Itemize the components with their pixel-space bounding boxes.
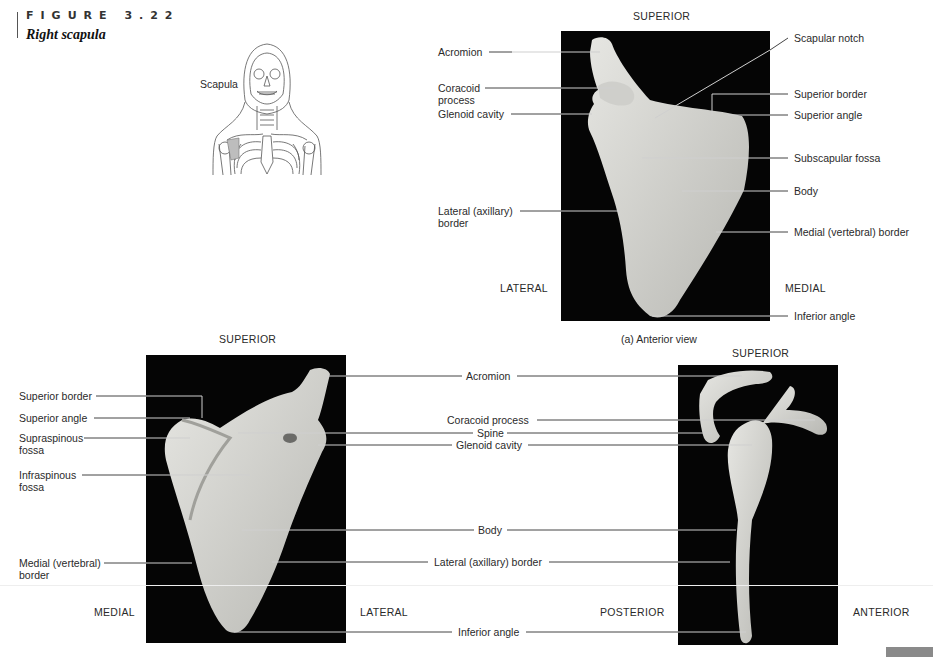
b-label-superior-border: Superior border bbox=[19, 390, 92, 402]
photo-lateral-view bbox=[678, 365, 838, 645]
panel-a-medial: MEDIAL bbox=[785, 282, 826, 294]
b-label-superior-angle: Superior angle bbox=[19, 412, 87, 424]
a-label-scapular-notch: Scapular notch bbox=[794, 32, 864, 44]
figure-accent-bar bbox=[17, 12, 18, 38]
shared-label-lateral-border: Lateral (axillary) border bbox=[434, 556, 542, 568]
panel-a-caption: (a) Anterior view bbox=[621, 333, 697, 345]
a-label-superior-angle: Superior angle bbox=[794, 109, 862, 121]
b-label-medial-line2: border bbox=[19, 569, 49, 581]
b-label-infraspinous-fossa: Infraspinous fossa bbox=[19, 469, 76, 493]
a-label-inferior-angle: Inferior angle bbox=[794, 310, 855, 322]
photo-posterior-view bbox=[146, 355, 346, 643]
panel-b-medial: MEDIAL bbox=[94, 606, 135, 618]
figure-number: FIGURE 3.22 bbox=[26, 9, 180, 22]
a-label-acromion: Acromion bbox=[438, 46, 482, 58]
shared-label-glenoid-cavity: Glenoid cavity bbox=[456, 439, 522, 451]
b-label-supraspinous-line2: fossa bbox=[19, 444, 44, 456]
inset-scapula-label: Scapula bbox=[200, 78, 238, 90]
shared-label-coracoid-process: Coracoid process bbox=[447, 414, 529, 426]
panel-a-superior: SUPERIOR bbox=[633, 10, 690, 22]
b-label-infraspinous-line1: Infraspinous bbox=[19, 469, 76, 481]
panel-a-lateral: LATERAL bbox=[500, 282, 548, 294]
b-label-medial-line1: Medial (vertebral) bbox=[19, 557, 101, 569]
a-label-coracoid-line2: process bbox=[438, 94, 475, 106]
b-label-medial-border: Medial (vertebral) border bbox=[19, 557, 101, 581]
a-label-coracoid-line1: Coracoid bbox=[438, 82, 480, 94]
panel-b-superior: SUPERIOR bbox=[219, 333, 276, 345]
skeleton-inset bbox=[205, 40, 330, 175]
b-label-supraspinous-fossa: Supraspinous fossa bbox=[19, 432, 83, 456]
panel-c-posterior: POSTERIOR bbox=[600, 606, 665, 618]
scapula-highlight bbox=[227, 138, 239, 160]
a-label-lateral-line1: Lateral (axillary) bbox=[438, 205, 513, 217]
a-label-subscapular-fossa: Subscapular fossa bbox=[794, 152, 880, 164]
shared-label-inferior-angle: Inferior angle bbox=[458, 626, 519, 638]
shared-label-body: Body bbox=[478, 524, 502, 536]
panel-c-superior: SUPERIOR bbox=[732, 347, 789, 359]
a-label-glenoid-cavity: Glenoid cavity bbox=[438, 108, 504, 120]
shared-label-spine: Spine bbox=[477, 427, 504, 439]
a-label-lateral-border: Lateral (axillary) border bbox=[438, 205, 513, 229]
a-label-medial-border: Medial (vertebral) border bbox=[794, 226, 909, 238]
photo-anterior-view bbox=[561, 31, 770, 321]
page-fold-line bbox=[0, 585, 933, 586]
shared-label-acromion: Acromion bbox=[466, 370, 510, 382]
a-label-coracoid-process: Coracoid process bbox=[438, 82, 480, 106]
b-label-supraspinous-line1: Supraspinous bbox=[19, 432, 83, 444]
panel-c-anterior: ANTERIOR bbox=[853, 606, 910, 618]
a-label-body: Body bbox=[794, 185, 818, 197]
a-label-lateral-line2: border bbox=[438, 217, 468, 229]
b-label-infraspinous-line2: fossa bbox=[19, 481, 44, 493]
skeleton-icon bbox=[205, 40, 330, 175]
a-label-superior-border: Superior border bbox=[794, 88, 867, 100]
page-corner-tab bbox=[886, 647, 933, 657]
panel-b-lateral: LATERAL bbox=[360, 606, 408, 618]
figure-title: Right scapula bbox=[26, 27, 106, 43]
